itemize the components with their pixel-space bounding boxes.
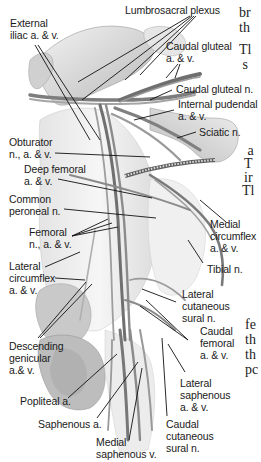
label-popliteal-a: Popliteal a.: [20, 395, 71, 407]
label-medial-circumflex: Medial circumflex a. & v.: [210, 218, 256, 254]
label-sciatic-n: Sciatic n.: [199, 126, 241, 138]
label-femoral: Femoral n., a. & v.: [29, 226, 71, 250]
label-lateral-saphenous: Lateral saphenous a. & v.: [180, 377, 230, 413]
label-lateral-cutaneous-sural: Lateral cutaneous sural n.: [182, 288, 230, 324]
cropped-text-3: Tl: [239, 42, 251, 57]
cropped-text-11: th: [245, 347, 256, 362]
cropped-text-1: br: [239, 5, 251, 20]
label-medial-saphenous-v: Medial saphenous v.: [96, 436, 156, 460]
cropped-text-2: th: [239, 20, 250, 35]
cropped-text-4: s: [239, 57, 248, 72]
label-caudal-gluteal-av: Caudal gluteal a. & v.: [166, 40, 232, 64]
label-caudal-cutaneous-sural: Caudal cutaneous sural n.: [166, 418, 214, 454]
label-lateral-circumflex: Lateral circumflex a. & v.: [9, 260, 55, 296]
cropped-text-8: Tl: [242, 183, 254, 198]
label-external-iliac: External iliac a. & v.: [10, 17, 59, 41]
label-internal-pudendal: Internal pudendal a. & v.: [178, 98, 257, 122]
cropped-text-9: fe: [245, 317, 256, 332]
cropped-text-12: pc: [245, 362, 258, 377]
label-caudal-femoral: Caudal femoral a. & v.: [200, 325, 234, 361]
anatomy-figure: External iliac a. & v. Lumbrosacral plex…: [0, 0, 261, 462]
label-descending-genicular: Descending genicular a.& v.: [9, 340, 63, 376]
label-obturator: Obturator n., a. & v.: [9, 136, 52, 160]
cropped-text-10: th: [245, 332, 256, 347]
label-lumbosacral-plexus: Lumbrosacral plexus: [125, 4, 220, 16]
label-deep-femoral: Deep femoral a. & v.: [24, 163, 86, 187]
label-saphenous-a: Saphenous a.: [38, 418, 102, 430]
cropped-text-6: T: [244, 156, 253, 171]
label-tibial-n: Tibial n.: [207, 263, 242, 275]
label-common-peroneal: Common peroneal n.: [9, 193, 60, 217]
label-caudal-gluteal-n: Caudal gluteal n.: [176, 83, 253, 95]
